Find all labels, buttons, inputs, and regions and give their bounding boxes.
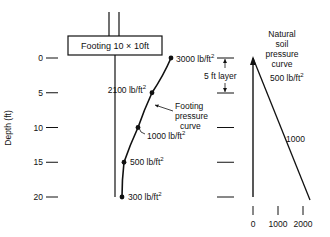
pressure-tick-label: 2000 [294, 219, 313, 229]
footing-point-label: 500 lb/ft2 [130, 156, 164, 167]
depth-tick-label: 10 [34, 123, 44, 133]
footing-pressure-diagram: Footing 10 × 10ft 05101520 Depth (ft) 30… [0, 0, 330, 237]
natural-depth-ticks [217, 128, 234, 198]
depth-tick-label: 0 [38, 53, 43, 63]
footing-label: Footing 10 × 10ft [81, 41, 149, 51]
footing-curve-point [150, 90, 155, 95]
depth-tick-label: 15 [34, 157, 44, 167]
natural-curve-label-line-3: pressure [265, 49, 298, 59]
natural-1000-label: 1000 [286, 134, 305, 144]
depth-tick-label: 5 [38, 88, 43, 98]
footing-curve-point [169, 56, 174, 61]
natural-curve-label-line-4: curve [272, 59, 293, 69]
pressure-tick-label: 0 [251, 219, 256, 229]
natural-curve-label-line-1: Natural [268, 29, 296, 39]
layer-label: 5 ft layer [204, 71, 237, 81]
footing-curve-label-line-3: curve [180, 121, 201, 131]
footing-pressure-curve [122, 58, 171, 197]
footing-curve-label-line-1: Footing [175, 101, 204, 111]
natural-curve-label-line-2: soil [276, 39, 289, 49]
pressure-tick-label: 1000 [269, 219, 288, 229]
natural-500-label: 500 lb/ft2 [270, 72, 304, 83]
footing-curve-label-line-2: pressure [175, 111, 208, 121]
depth-tick-label: 20 [34, 192, 44, 202]
depth-axis-title: Depth (ft) [3, 110, 13, 146]
footing-point-label: 3000 lb/ft2 [176, 53, 215, 64]
depth-axis: 05101520 [34, 53, 58, 202]
footing-curve-point [120, 195, 125, 200]
footing-point-label: 300 lb/ft2 [128, 191, 162, 202]
footing-point-label: 2100 lb/ft2 [108, 84, 147, 95]
footing-point-label: 1000 lb/ft2 [147, 130, 186, 141]
footing-curve-point [122, 160, 127, 165]
pressure-axis-ticks: 010002000 [251, 206, 313, 229]
